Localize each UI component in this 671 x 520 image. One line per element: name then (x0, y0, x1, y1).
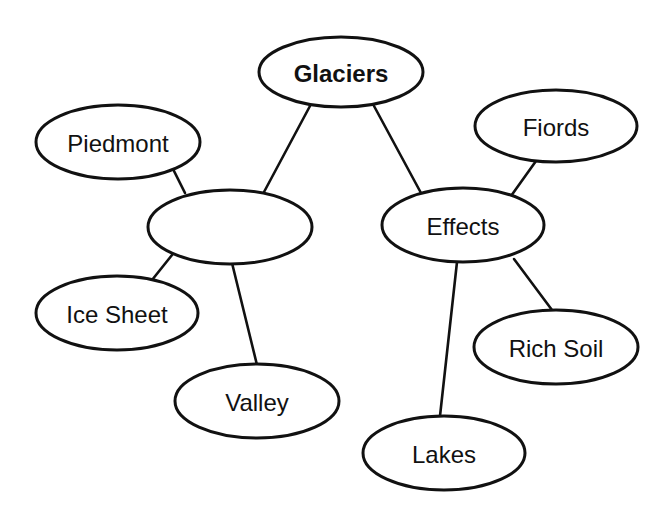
fiords-label: Fiords (523, 114, 590, 141)
node-effects: Effects (382, 188, 544, 262)
connector-blank-to-ice-sheet (152, 255, 172, 280)
node-ice-sheet: Ice Sheet (36, 276, 198, 350)
node-blank (148, 190, 312, 264)
connector-glaciers-to-effects (374, 106, 421, 193)
connector-blank-to-valley (232, 263, 257, 365)
rich-soil-label: Rich Soil (509, 335, 604, 362)
glaciers-label: Glaciers (294, 60, 389, 87)
node-lakes: Lakes (363, 416, 525, 490)
nodes-layer: GlaciersPiedmontIce SheetValleyEffectsFi… (36, 37, 638, 490)
node-piedmont: Piedmont (36, 105, 200, 179)
lakes-label: Lakes (412, 441, 476, 468)
piedmont-label: Piedmont (67, 130, 169, 157)
connector-piedmont-to-blank (173, 169, 185, 193)
connector-glaciers-to-blank (264, 106, 310, 192)
glaciers-concept-map: GlaciersPiedmontIce SheetValleyEffectsFi… (0, 0, 671, 520)
valley-label: Valley (225, 389, 289, 416)
node-fiords: Fiords (475, 90, 637, 162)
node-valley: Valley (175, 364, 339, 438)
blank-ellipse (148, 190, 312, 264)
connector-effects-to-rich-soil (514, 259, 552, 310)
connector-fiords-to-effects (511, 161, 536, 196)
node-rich-soil: Rich Soil (474, 310, 638, 384)
connector-effects-to-lakes (440, 262, 457, 416)
effects-label: Effects (427, 213, 500, 240)
node-glaciers: Glaciers (259, 37, 423, 107)
ice-sheet-label: Ice Sheet (66, 301, 168, 328)
